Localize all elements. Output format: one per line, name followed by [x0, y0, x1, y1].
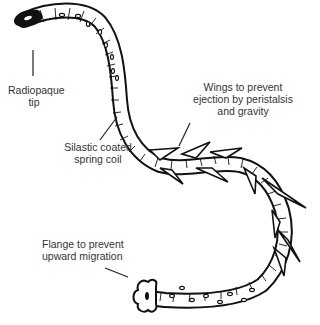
label-line: upward migration [42, 250, 142, 262]
label-line: Radiopaque [8, 84, 60, 96]
label-line: Wings to prevent [183, 81, 303, 93]
label-line: ejection by peristalsis [183, 93, 303, 105]
label-flange: Flange to prevent upward migration [42, 238, 142, 262]
label-radiopaque-tip: Radiopaque tip [8, 84, 60, 108]
leader-flange [105, 268, 128, 277]
label-line: spring coil [58, 153, 138, 165]
leader-wings [179, 123, 190, 146]
label-line: Flange to prevent [42, 238, 142, 250]
leader-silastic-coil [100, 117, 117, 140]
label-silastic-coil: Silastic coated spring coil [58, 141, 138, 165]
flange-shape [134, 280, 157, 312]
label-wings: Wings to prevent ejection by peristalsis… [183, 81, 303, 117]
label-line: tip [8, 96, 60, 108]
radiopaque-tip-shape [14, 10, 42, 27]
label-line: Silastic coated [58, 141, 138, 153]
label-line: and gravity [183, 105, 303, 117]
stent-diagram [0, 0, 320, 325]
